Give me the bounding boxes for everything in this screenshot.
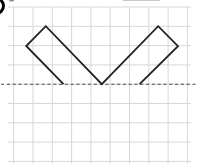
geometry-diagram [0, 0, 197, 164]
cut-off-print-artifacts [9, 0, 160, 1]
zigzag-shape-outline [26, 26, 178, 84]
top-edge-artifact [123, 0, 160, 1]
grid-canvas [0, 0, 197, 164]
question-number-badge-partial [0, 0, 4, 14]
top-edge-artifact [9, 0, 14, 1]
